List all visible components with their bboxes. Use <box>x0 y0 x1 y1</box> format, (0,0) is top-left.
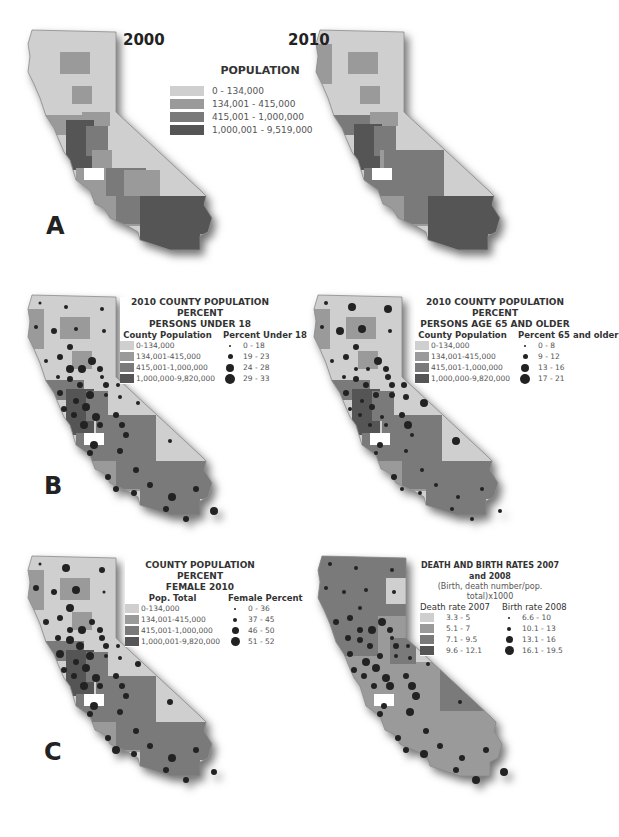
legend-label: 13 - 16 <box>538 363 565 372</box>
county-dot <box>367 643 373 649</box>
county-dot <box>372 664 380 672</box>
fill-legend: County Population 0-134,000 134,001-415,… <box>120 330 215 384</box>
county-dot <box>72 586 80 594</box>
dot-symbol <box>231 637 240 646</box>
dot-symbol <box>520 374 530 384</box>
county-dot <box>97 422 103 428</box>
panel-a-2010: 2010 <box>290 0 579 280</box>
legend-swatch <box>420 635 434 644</box>
county-dot <box>351 667 357 673</box>
county-dot <box>104 393 108 397</box>
county-dot <box>73 659 79 665</box>
county-dot <box>66 604 74 612</box>
legend-title: 2010 COUNTY POPULATION PERCENT <box>120 297 280 319</box>
county-dot <box>377 653 383 659</box>
fill-legend: Death rate 2007 3.3 - 5 5.1 - 7 7.1 - 9.… <box>420 602 490 656</box>
dot-symbol <box>229 345 231 347</box>
county-dot <box>90 702 98 710</box>
county-dot <box>410 433 414 437</box>
county-dot <box>39 563 42 566</box>
county-dot <box>452 437 460 445</box>
county-dot <box>391 474 397 480</box>
county-dot <box>358 606 362 610</box>
county-dot <box>193 486 199 492</box>
legend-title: PERSONS AGE 65 AND OLDER <box>415 319 575 330</box>
county-dot <box>97 683 103 689</box>
legend-label: 51 - 52 <box>248 637 275 646</box>
county-dot <box>368 423 372 427</box>
legend-item: 1,000,000-9,820,000 <box>415 373 510 384</box>
legend-label: 0 - 8 <box>538 341 555 350</box>
legend-label: 0 - 134,000 <box>212 86 264 96</box>
legend-swatch <box>170 112 204 122</box>
legend-swatch <box>120 363 134 372</box>
county-dot <box>357 637 363 643</box>
county-dot <box>437 743 443 749</box>
california-map-2010 <box>288 0 578 280</box>
county-dot <box>131 490 137 496</box>
county-dot <box>57 354 63 360</box>
county-region <box>92 150 112 170</box>
county-dot <box>456 495 460 499</box>
county-dot <box>470 517 474 521</box>
county-dot <box>90 441 98 449</box>
county-dot <box>394 654 398 658</box>
county-dot <box>78 626 86 634</box>
county-dot <box>403 394 409 400</box>
county-dot <box>211 769 217 775</box>
county-dot <box>183 516 189 522</box>
county-dot <box>368 626 376 634</box>
fill-legend-header: County Population <box>415 330 510 340</box>
panel-label-a: A <box>46 212 65 240</box>
legend-item: 1,000,001-9,820,000 <box>125 636 220 647</box>
legend-swatch <box>420 613 434 622</box>
county-dot <box>51 328 57 334</box>
county-region <box>140 461 220 521</box>
county-dot <box>380 415 384 419</box>
county-dot <box>82 403 90 411</box>
county-region <box>348 52 378 74</box>
county-region <box>140 196 220 256</box>
county-region <box>60 52 90 74</box>
county-dot <box>342 590 346 594</box>
county-dot <box>358 325 366 333</box>
county-dot <box>88 357 96 365</box>
county-region <box>370 112 398 126</box>
legend-swatch <box>170 86 204 96</box>
legend-swatch <box>415 352 429 361</box>
county-dot <box>320 325 324 329</box>
county-dot <box>105 474 111 480</box>
county-dot <box>404 421 412 429</box>
county-dot <box>80 682 88 690</box>
county-dot <box>168 439 172 443</box>
county-dot <box>389 382 395 388</box>
legend-item: 3.3 - 5 <box>420 612 490 623</box>
year-label-2010: 2010 <box>288 31 330 49</box>
county-dot <box>56 375 60 379</box>
county-region <box>124 170 160 200</box>
county-dot <box>99 567 105 573</box>
county-dot <box>80 421 88 429</box>
dot-legend: Birth rate 2008 6.6 - 10 10.1 - 13 13.1 … <box>502 602 567 656</box>
county-region <box>440 666 500 711</box>
county-dot <box>324 586 328 590</box>
legend-swatch <box>125 604 139 613</box>
county-dot <box>119 422 125 428</box>
county-dot <box>136 401 140 405</box>
county-dot <box>404 449 408 453</box>
county-dot <box>362 658 370 666</box>
county-dot <box>135 661 141 667</box>
county-region <box>488 234 518 254</box>
legend-item: 16.1 - 19.5 <box>502 645 567 656</box>
county-region <box>360 86 380 104</box>
year-label-2000: 2000 <box>123 31 165 49</box>
legend-title: PERSONS UNDER 18 <box>120 319 280 330</box>
legend-title: 2010 COUNTY POPULATION PERCENT <box>415 297 575 319</box>
county-dot <box>67 344 73 350</box>
county-dot <box>385 374 391 380</box>
legend-item: 0-134,000 <box>415 340 510 351</box>
legend-label: 29 - 33 <box>243 374 270 383</box>
county-dot <box>383 366 389 372</box>
county-dot <box>406 708 414 716</box>
county-dot <box>348 407 352 411</box>
